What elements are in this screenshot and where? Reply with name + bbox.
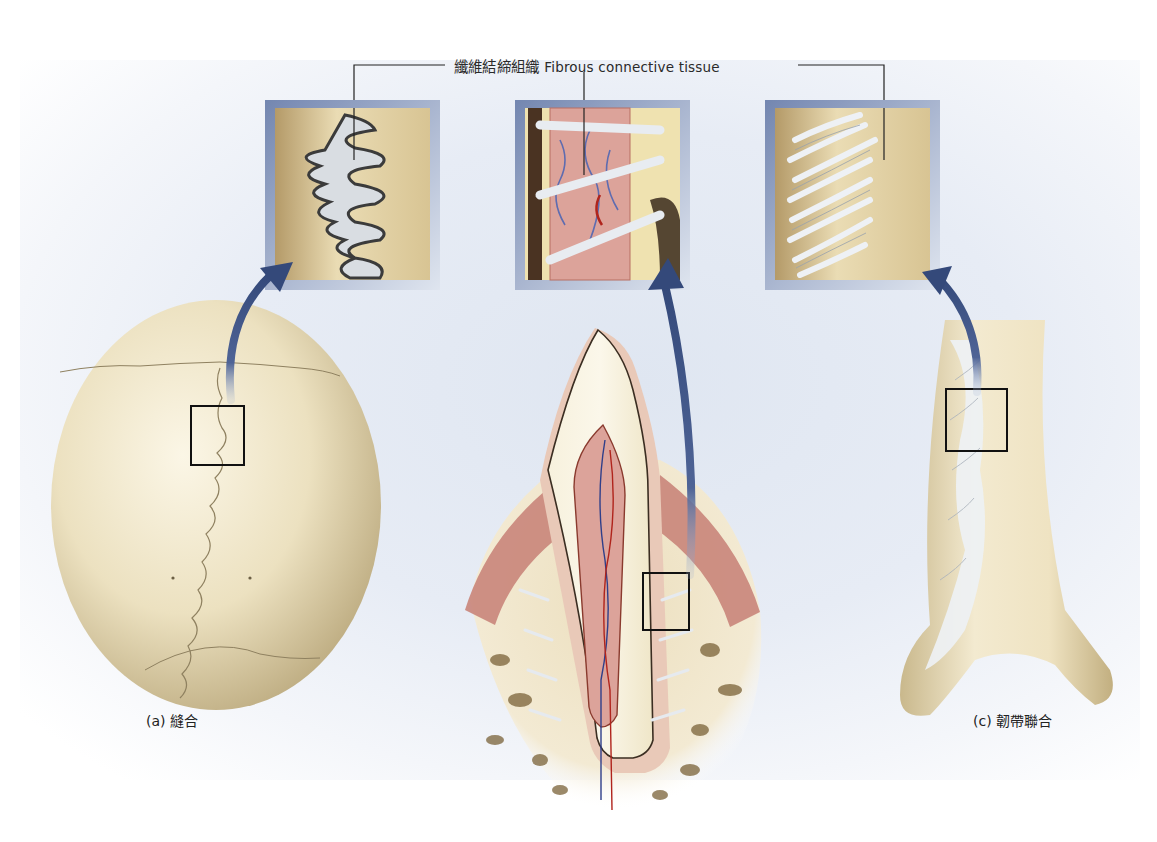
fibrous-connective-tissue-callout: 纖維結締組織Fibrous connective tissue: [454, 55, 720, 76]
callout-label-zh: 纖維結締組織: [454, 59, 539, 75]
tooth-illustration: [465, 328, 761, 810]
inset-suture: [265, 100, 440, 290]
callout-label-en: Fibrous connective tissue: [544, 59, 720, 75]
inset-syndesmosis: [765, 100, 940, 290]
inset-gomphosis: [515, 100, 690, 290]
tibia-fibula-illustration: [900, 320, 1113, 716]
caption-syndesmosis: (c) 韌帶聯合: [973, 710, 1052, 730]
skull-illustration: [51, 300, 381, 710]
caption-suture: (a) 縫合: [146, 710, 198, 730]
